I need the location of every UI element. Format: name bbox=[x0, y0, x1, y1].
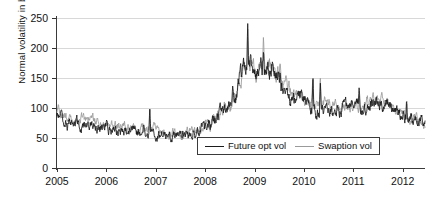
legend-swatch-swaption-vol bbox=[295, 146, 314, 147]
x-tick-label: 2007 bbox=[144, 175, 167, 187]
y-tick-label: 150 bbox=[30, 73, 48, 84]
legend-label-future-opt-vol: Future opt vol bbox=[228, 141, 286, 151]
y-axis-title: Normal volatility in bp bbox=[16, 0, 27, 103]
x-tick-label: 2005 bbox=[45, 175, 68, 187]
x-tick-label: 2008 bbox=[194, 175, 217, 187]
x-tick-label: 2011 bbox=[342, 175, 365, 187]
x-axis-spine bbox=[56, 168, 425, 169]
y-tick-label: 250 bbox=[30, 13, 48, 24]
legend-label-swaption-vol: Swaption vol bbox=[318, 141, 372, 151]
volatility-line-chart: Normal volatility in bp 050100150200250 … bbox=[0, 0, 442, 210]
x-tick-label: 2009 bbox=[243, 175, 266, 187]
y-tick-label: 0 bbox=[42, 163, 48, 174]
x-tick-label: 2012 bbox=[391, 175, 414, 187]
chart-legend: Future opt vol Swaption vol bbox=[197, 137, 380, 155]
y-tick-label: 100 bbox=[30, 103, 48, 114]
y-tick-label: 50 bbox=[36, 133, 48, 144]
legend-entry-swaption-vol: Swaption vol bbox=[295, 141, 372, 151]
x-tick-label: 2006 bbox=[95, 175, 118, 187]
x-tick-label: 2010 bbox=[292, 175, 315, 187]
y-tick-label: 200 bbox=[30, 43, 48, 54]
swaption-vol-line bbox=[57, 29, 425, 140]
legend-swatch-future-opt-vol bbox=[205, 146, 224, 147]
legend-entry-future-opt-vol: Future opt vol bbox=[205, 141, 286, 151]
